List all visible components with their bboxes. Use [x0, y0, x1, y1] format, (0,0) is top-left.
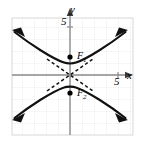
x-axis-label: x — [127, 70, 132, 81]
focus-1-label: F1 — [77, 51, 87, 64]
x-axis-tick-label-5: 5 — [114, 76, 120, 87]
focus-1-subscript: 1 — [83, 56, 87, 64]
focus-2-point — [67, 90, 72, 95]
hyperbola-figure: y x 5 5 F1 F2 — [0, 0, 145, 142]
y-axis-tick-label-5: 5 — [61, 16, 67, 27]
focus-2-label: F2 — [77, 88, 87, 101]
focus-1-point — [67, 54, 72, 59]
plot-canvas — [0, 0, 145, 142]
focus-2-subscript: 2 — [83, 93, 87, 101]
y-axis-label: y — [70, 4, 75, 15]
